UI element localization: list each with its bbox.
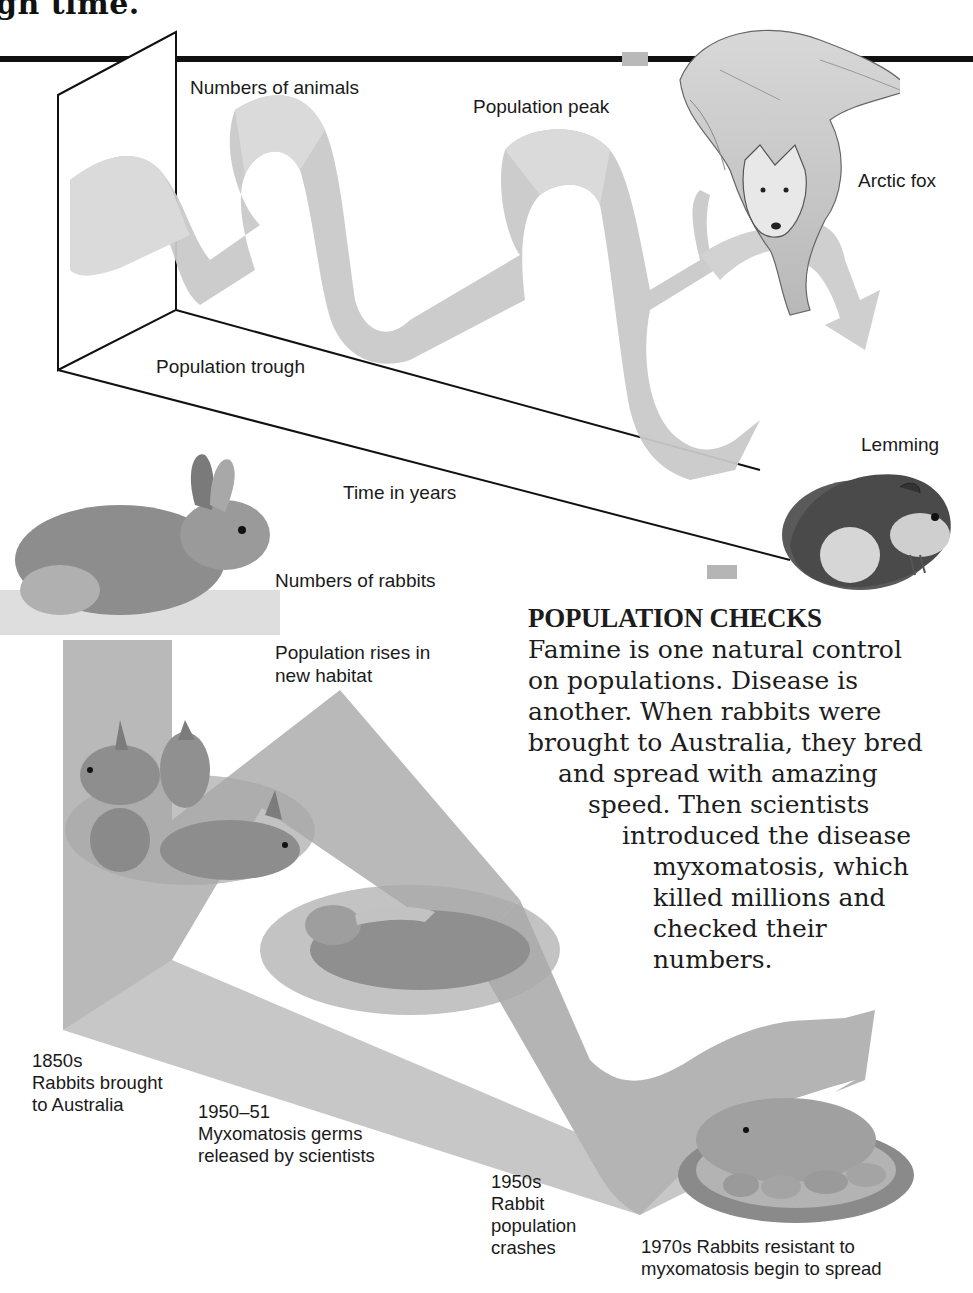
y-axis-label-rabbits: Numbers of rabbits: [275, 570, 436, 592]
young-rabbits-group-illustration: [60, 720, 330, 900]
event-date: 1950–51: [198, 1101, 428, 1123]
adult-rabbit-illustration: [0, 450, 285, 640]
body-line: introduced the disease: [528, 820, 973, 851]
body-line: checked their: [528, 913, 973, 944]
event-text: Rabbits brought to Australia: [32, 1072, 172, 1116]
section-title: POPULATION CHECKS: [528, 603, 973, 634]
event-text: Myxomatosis germs released by scientists: [198, 1123, 428, 1167]
body-line: brought to Australia, they bred: [528, 727, 973, 758]
body-line: myxomatosis, which: [528, 851, 973, 882]
event-1850s: 1850s Rabbits brought to Australia: [32, 1050, 172, 1116]
dying-rabbit-illustration: [255, 880, 565, 1020]
body-line: and spread with amazing: [528, 758, 973, 789]
event-1950s: 1950s Rabbit population crashes: [491, 1171, 611, 1259]
body-line: killed millions and: [528, 882, 973, 913]
event-1950-51: 1950–51 Myxomatosis germs released by sc…: [198, 1101, 428, 1167]
body-line: on populations. Disease is: [528, 665, 973, 696]
event-date: 1970s: [641, 1236, 691, 1257]
event-date: 1850s: [32, 1050, 172, 1072]
event-date: 1950s: [491, 1171, 611, 1193]
body-line: Famine is one natural control: [528, 634, 973, 665]
resistant-rabbits-nest-illustration: [676, 1090, 916, 1225]
event-1970s: 1970s Rabbits resistant to myxomatosis b…: [641, 1236, 951, 1280]
population-rises-label: Population rises in new habitat: [275, 641, 465, 687]
event-text: Rabbit population crashes: [491, 1193, 611, 1259]
population-checks-textblock: POPULATION CHECKS Famine is one natural …: [528, 603, 973, 975]
body-line: speed. Then scientists: [528, 789, 973, 820]
body-line: another. When rabbits were: [528, 696, 973, 727]
body-line: numbers.: [528, 944, 973, 975]
